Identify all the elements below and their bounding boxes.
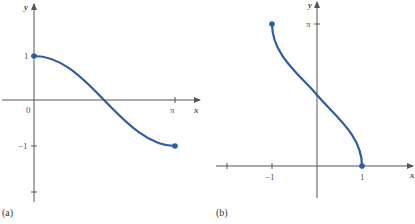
chart-b: y x π −1 1 (b) bbox=[216, 0, 415, 219]
panel-label-b: (b) bbox=[216, 207, 228, 219]
chart-a-x-label: x bbox=[193, 105, 199, 115]
chart-a-curve bbox=[34, 56, 175, 146]
panel-label-a: (a) bbox=[2, 207, 13, 219]
chart-a-tick-1: 1 bbox=[24, 51, 29, 61]
figure: y x 1 0 π −1 (a) y x π −1 1 (b) bbox=[0, 0, 415, 224]
chart-a-y-label: y bbox=[23, 2, 29, 12]
chart-b-tick-neg1: −1 bbox=[265, 172, 275, 182]
chart-a: y x 1 0 π −1 (a) bbox=[2, 2, 200, 219]
chart-b-tick-1: 1 bbox=[360, 172, 365, 182]
endpoint bbox=[269, 21, 275, 27]
endpoint bbox=[31, 53, 37, 59]
chart-b-x-label: x bbox=[409, 170, 415, 180]
endpoint bbox=[359, 163, 365, 169]
chart-b-tick-pi: π bbox=[306, 19, 311, 29]
endpoint bbox=[172, 143, 178, 149]
chart-b-y-label: y bbox=[307, 0, 313, 10]
chart-a-tick-0: 0 bbox=[26, 105, 31, 115]
chart-a-tick-neg1: −1 bbox=[18, 141, 28, 151]
chart-a-tick-pi: π bbox=[170, 105, 175, 115]
